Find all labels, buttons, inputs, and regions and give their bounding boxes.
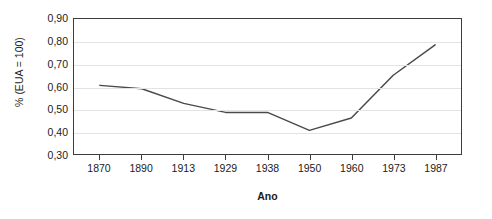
gridline <box>74 65 461 66</box>
y-axis-tick-labels: 0,900,800,700,600,500,400,30 <box>26 18 68 155</box>
y-tick-label: 0,80 <box>30 36 68 47</box>
y-tick-label: 0,40 <box>30 127 68 138</box>
x-axis-tick-marks <box>73 155 462 161</box>
y-axis-title: % (EUA = 100) <box>12 0 26 152</box>
plot-area <box>73 18 462 155</box>
y-tick-label: 0,50 <box>30 104 68 115</box>
gridline <box>74 42 461 43</box>
gridline <box>74 88 461 89</box>
x-axis-tick-labels: 187018901913192919381950196019731987 <box>73 162 462 176</box>
x-tick-mark <box>183 155 184 160</box>
y-tick-label: 0,30 <box>30 150 68 161</box>
y-tick-label: 0,90 <box>30 13 68 24</box>
x-tick-mark <box>268 155 269 160</box>
gridline <box>74 133 461 134</box>
x-tick-mark <box>394 155 395 160</box>
x-tick-mark <box>436 155 437 160</box>
y-tick-label: 0,70 <box>30 59 68 70</box>
x-tick-mark <box>141 155 142 160</box>
x-axis-title: Ano <box>73 190 462 202</box>
line-chart: % (EUA = 100) 0,900,800,700,600,500,400,… <box>0 0 492 219</box>
x-tick-mark <box>225 155 226 160</box>
x-tick-label: 1987 <box>408 162 464 175</box>
gridline <box>74 110 461 111</box>
x-tick-mark <box>99 155 100 160</box>
y-tick-label: 0,60 <box>30 82 68 93</box>
x-tick-mark <box>352 155 353 160</box>
x-tick-mark <box>310 155 311 160</box>
